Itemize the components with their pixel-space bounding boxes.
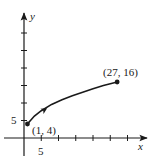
start-point-marker bbox=[25, 122, 30, 127]
x-tick-label-5: 5 bbox=[38, 145, 44, 157]
x-axis-label: x bbox=[137, 140, 143, 152]
end-point-marker bbox=[115, 80, 120, 85]
parametric-curve-plot: x y 5 5 (1, 4) (27, 16) bbox=[0, 0, 151, 167]
start-point-label: (1, 4) bbox=[32, 124, 56, 137]
y-tick-label-5: 5 bbox=[11, 114, 17, 126]
curve-path bbox=[27, 82, 117, 124]
y-axis-label: y bbox=[29, 10, 35, 22]
end-point-label: (27, 16) bbox=[103, 66, 138, 79]
